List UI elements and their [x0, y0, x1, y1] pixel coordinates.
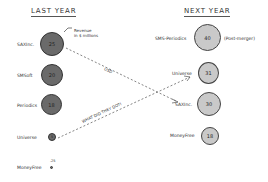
next-saxinc-label: SAXInc. [175, 102, 192, 107]
last-periodics-bubble: 18 [41, 94, 62, 115]
last-universe-label: Universe [17, 135, 37, 140]
next-universe-label: Universe [172, 71, 192, 76]
connector-lines [0, 0, 268, 182]
bubble-value: 20 [49, 72, 55, 78]
last-smsoft-bubble: 20 [41, 64, 63, 86]
last-moneyfree-label: MoneyFree [17, 165, 41, 170]
post-merger-note: (Post-merger) [224, 36, 255, 41]
next-smsperiodics-label: SMS-Periodics [155, 36, 186, 41]
bubble-value: 31 [205, 70, 211, 76]
revenue-note: Revenue in $ millions [74, 28, 98, 38]
bubble-value: 5 [51, 135, 53, 139]
next-saxinc-bubble: 30 [197, 92, 221, 116]
next-moneyfree-label: MoneyFree [170, 133, 194, 138]
bubble-value: 18 [48, 102, 54, 108]
last-moneyfree-value: .25 [50, 159, 56, 163]
last-year-title: LAST YEAR [31, 7, 76, 17]
next-smsperiodics-bubble: 40 [194, 24, 221, 51]
last-periodics-label: Periodics [17, 103, 37, 108]
last-smsoft-label: SMSoft [17, 73, 33, 78]
next-year-title: NEXT YEAR [184, 7, 230, 17]
bubble-value: 18 [207, 133, 213, 139]
last-moneyfree-bubble [50, 166, 53, 169]
last-universe-bubble: 5 [48, 133, 56, 141]
revenue-note-line2: in $ millions [74, 33, 98, 38]
next-universe-bubble: 31 [198, 62, 219, 84]
next-moneyfree-bubble: 18 [201, 127, 219, 145]
bubble-value: 25 [49, 41, 55, 47]
bubble-value: 30 [206, 101, 212, 107]
last-saxinc-bubble: 25 [40, 32, 64, 56]
bubble-value: 40 [204, 35, 210, 41]
last-saxinc-label: SAXInc. [17, 42, 34, 47]
